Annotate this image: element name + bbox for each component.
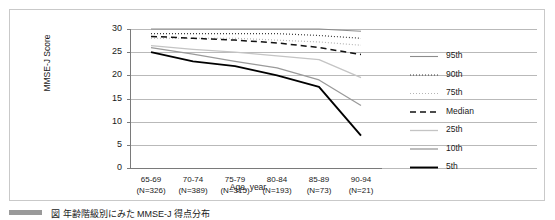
y-axis-title: MMSE-J Score [42,18,52,108]
y-tick-label-5: 5 [100,139,122,149]
y-tick-label-0: 0 [100,162,122,172]
legend-sample-lines [410,57,438,168]
series-line-95th [151,29,361,31]
legend-label-90th: 90th [446,69,463,79]
legend-label-75th: 75th [446,87,463,97]
x-tick-sample-count: (N=21) [334,185,388,196]
legend-label-median: Median [446,106,474,116]
data-series-group [151,29,361,136]
figure-caption-text: 図 年齢階級別にみた MMSE-J 得点分布 [51,207,210,220]
x-tick-label-90-94: 90-94(N=21) [334,174,388,196]
figure-frame: MMSE-J Score Age, year 302520151050 65-6… [9,9,545,201]
legend-label-10th: 10th [446,143,463,153]
legend-label-5th: 5th [446,161,458,171]
y-tick-label-20: 20 [100,69,122,79]
x-tick-age-range: 90-94 [334,174,388,185]
figure-caption: 図 年齢階級別にみた MMSE-J 得点分布 [9,207,545,220]
y-tick-label-15: 15 [100,93,122,103]
series-line-10th [151,48,361,106]
y-tick-label-25: 25 [100,46,122,56]
figure-number-badge [9,210,42,215]
legend-label-95th: 95th [446,50,463,60]
y-tick-label-30: 30 [100,23,122,33]
y-tick-label-10: 10 [100,116,122,126]
chart-plot-area: MMSE-J Score Age, year 302520151050 65-6… [10,10,546,202]
legend-label-25th: 25th [446,124,463,134]
series-line-25th [151,46,361,78]
